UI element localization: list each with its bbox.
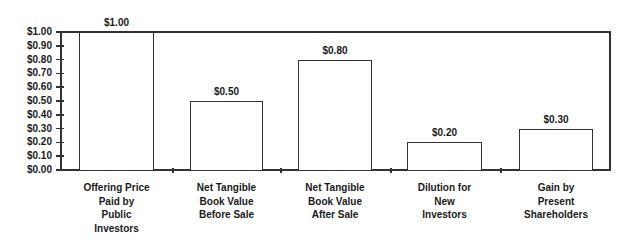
- y-tick-mark: [56, 59, 64, 61]
- y-tick-label: $0.70: [0, 68, 52, 78]
- category-label: Net Tangible Book Value Before Sale: [172, 181, 282, 222]
- y-tick-mark: [56, 73, 64, 75]
- bar-value-label: $0.30: [516, 115, 596, 125]
- y-tick-mark: [56, 31, 64, 33]
- bar: [190, 101, 263, 170]
- bar-value-label: $0.80: [295, 46, 375, 56]
- y-tick-label: $1.00: [0, 27, 52, 37]
- dilution-bar-chart: $0.00$0.10$0.20$0.30$0.40$0.50$0.60$0.70…: [0, 0, 635, 240]
- x-tick-mark: [390, 168, 392, 173]
- bar: [407, 142, 482, 170]
- y-tick-label: $0.50: [0, 96, 52, 106]
- y-tick-label: $0.60: [0, 82, 52, 92]
- y-tick-mark: [56, 155, 64, 157]
- y-tick-mark: [56, 142, 64, 144]
- bar: [519, 129, 593, 170]
- category-label: Gain by Present Shareholders: [501, 181, 611, 222]
- bar-value-label: $0.20: [405, 128, 485, 138]
- bar: [298, 60, 372, 170]
- y-tick-mark: [56, 114, 64, 116]
- y-tick-label: $0.90: [0, 41, 52, 51]
- bar-value-label: $1.00: [77, 18, 157, 28]
- y-tick-mark: [56, 100, 64, 102]
- y-tick-mark: [56, 86, 64, 88]
- bar: [79, 32, 154, 170]
- category-label: Offering Price Paid by Public Investors: [62, 181, 172, 235]
- y-tick-mark: [56, 169, 64, 171]
- y-tick-label: $0.10: [0, 151, 52, 161]
- x-tick-mark: [500, 168, 502, 173]
- x-tick-mark: [172, 168, 174, 173]
- y-tick-label: $0.00: [0, 165, 52, 175]
- category-label: Net Tangible Book Value After Sale: [280, 181, 390, 222]
- category-label: Dilution for New Investors: [390, 181, 500, 222]
- x-tick-mark: [280, 168, 282, 173]
- y-tick-label: $0.40: [0, 110, 52, 120]
- y-tick-label: $0.20: [0, 137, 52, 147]
- bar-value-label: $0.50: [187, 87, 267, 97]
- y-tick-mark: [56, 128, 64, 130]
- y-tick-label: $0.30: [0, 124, 52, 134]
- y-tick-mark: [56, 45, 64, 47]
- y-tick-label: $0.80: [0, 55, 52, 65]
